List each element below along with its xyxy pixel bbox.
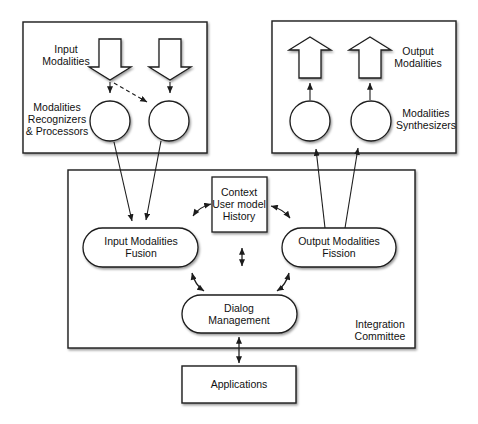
dialog-management-node bbox=[182, 295, 297, 333]
diagram-canvas: Input Modalities Modalities Recognizers … bbox=[0, 0, 478, 424]
recognizer-circle-2 bbox=[149, 101, 189, 141]
context-node bbox=[212, 177, 267, 232]
recognizer-circle-1 bbox=[90, 101, 130, 141]
applications-box bbox=[182, 366, 296, 403]
input-fusion-node bbox=[83, 228, 198, 267]
synthesizer-circle-1 bbox=[290, 101, 330, 141]
synthesizer-circle-2 bbox=[351, 101, 391, 141]
architecture-diagram bbox=[0, 0, 478, 424]
output-fission-node bbox=[282, 228, 396, 267]
